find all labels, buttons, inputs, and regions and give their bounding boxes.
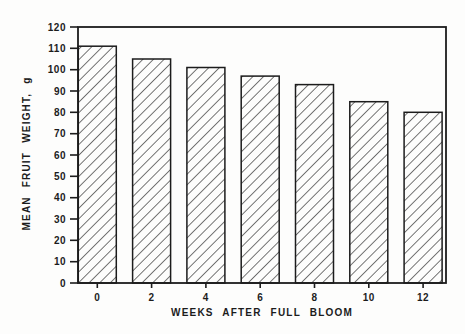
y-tick-label: 100 [48,64,66,75]
y-tick-label: 90 [54,86,66,97]
x-axis-title: WEEKS AFTER FULL BLOOM [77,307,447,318]
bar-week-12 [404,112,442,283]
y-tick-label: 110 [48,43,66,54]
bar-week-8 [296,85,334,283]
y-tick-label: 50 [54,171,66,182]
plot-svg: 0102030405060708090100110120024681012 [0,0,465,334]
x-tick-label: 12 [417,292,429,303]
x-tick-label: 6 [257,292,263,303]
y-tick-label: 10 [54,256,66,267]
y-tick-label: 40 [54,192,66,203]
y-tick-label: 0 [60,278,66,289]
bar-week-6 [241,76,279,283]
x-tick-label: 2 [149,292,155,303]
y-tick-label: 80 [54,107,66,118]
x-tick-label: 10 [363,292,375,303]
y-tick-label: 60 [54,150,66,161]
bar-week-10 [350,102,388,283]
x-tick-label: 0 [94,292,100,303]
x-tick-label: 4 [203,292,209,303]
bar-week-0 [78,46,116,283]
y-tick-label: 30 [54,214,66,225]
y-tick-label: 120 [48,22,66,33]
y-tick-label: 70 [54,128,66,139]
y-axis-title: MEAN FRUIT WEIGHT, g [21,24,32,284]
bar-week-4 [187,68,225,284]
bar-week-2 [133,59,171,283]
y-tick-label: 20 [54,235,66,246]
chart-figure: 0102030405060708090100110120024681012 ME… [0,0,465,334]
x-tick-label: 8 [311,292,317,303]
